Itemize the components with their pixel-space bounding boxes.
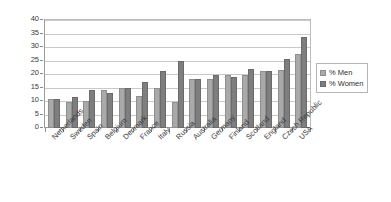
- bar-group: [133, 20, 151, 128]
- y-tick-mark: [40, 19, 43, 20]
- y-tick-label: 35: [31, 29, 39, 37]
- legend-item-men[interactable]: % Men: [320, 67, 363, 78]
- bar-group: [45, 20, 63, 128]
- y-axis: 0510152025303540: [0, 0, 44, 135]
- legend-label-women: % Women: [329, 79, 363, 88]
- bar-group: [239, 20, 257, 128]
- x-tick-label: Italy: [156, 125, 172, 141]
- y-tick-label: 40: [31, 15, 39, 23]
- bar-group: [116, 20, 134, 128]
- y-tick-label: 30: [31, 42, 39, 50]
- bar-women[interactable]: [160, 71, 166, 128]
- bar-group: [151, 20, 169, 128]
- bar-women[interactable]: [107, 93, 113, 128]
- legend-item-women[interactable]: % Women: [320, 78, 363, 89]
- x-axis-labels: NetherlandsSwedenSpainBelgiumDenmarkFran…: [0, 128, 391, 202]
- legend-label-men: % Men: [329, 68, 352, 77]
- y-tick-mark: [40, 100, 43, 101]
- men-swatch-icon: [320, 70, 326, 76]
- bar-group: [98, 20, 116, 128]
- y-tick-label: 20: [31, 69, 39, 77]
- bar-chart: 0510152025303540 NetherlandsSwedenSpainB…: [0, 0, 391, 202]
- bar-group: [204, 20, 222, 128]
- bar-women[interactable]: [195, 79, 201, 128]
- y-tick-mark: [40, 87, 43, 88]
- chart-legend: % Men % Women: [316, 63, 368, 93]
- bar-women[interactable]: [248, 69, 254, 128]
- y-tick-mark: [40, 60, 43, 61]
- bar-group: [169, 20, 187, 128]
- women-swatch-icon: [320, 81, 326, 87]
- y-tick-mark: [40, 46, 43, 47]
- bar-women[interactable]: [54, 99, 60, 128]
- y-tick-mark: [40, 73, 43, 74]
- bar-group: [275, 20, 293, 128]
- bar-group: [186, 20, 204, 128]
- y-tick-label: 5: [35, 110, 39, 118]
- y-tick-mark: [40, 114, 43, 115]
- y-tick-label: 25: [31, 56, 39, 64]
- y-tick-label: 10: [31, 96, 39, 104]
- bar-women[interactable]: [178, 61, 184, 128]
- y-tick-mark: [40, 33, 43, 34]
- y-tick-label: 15: [31, 83, 39, 91]
- bar-group: [257, 20, 275, 128]
